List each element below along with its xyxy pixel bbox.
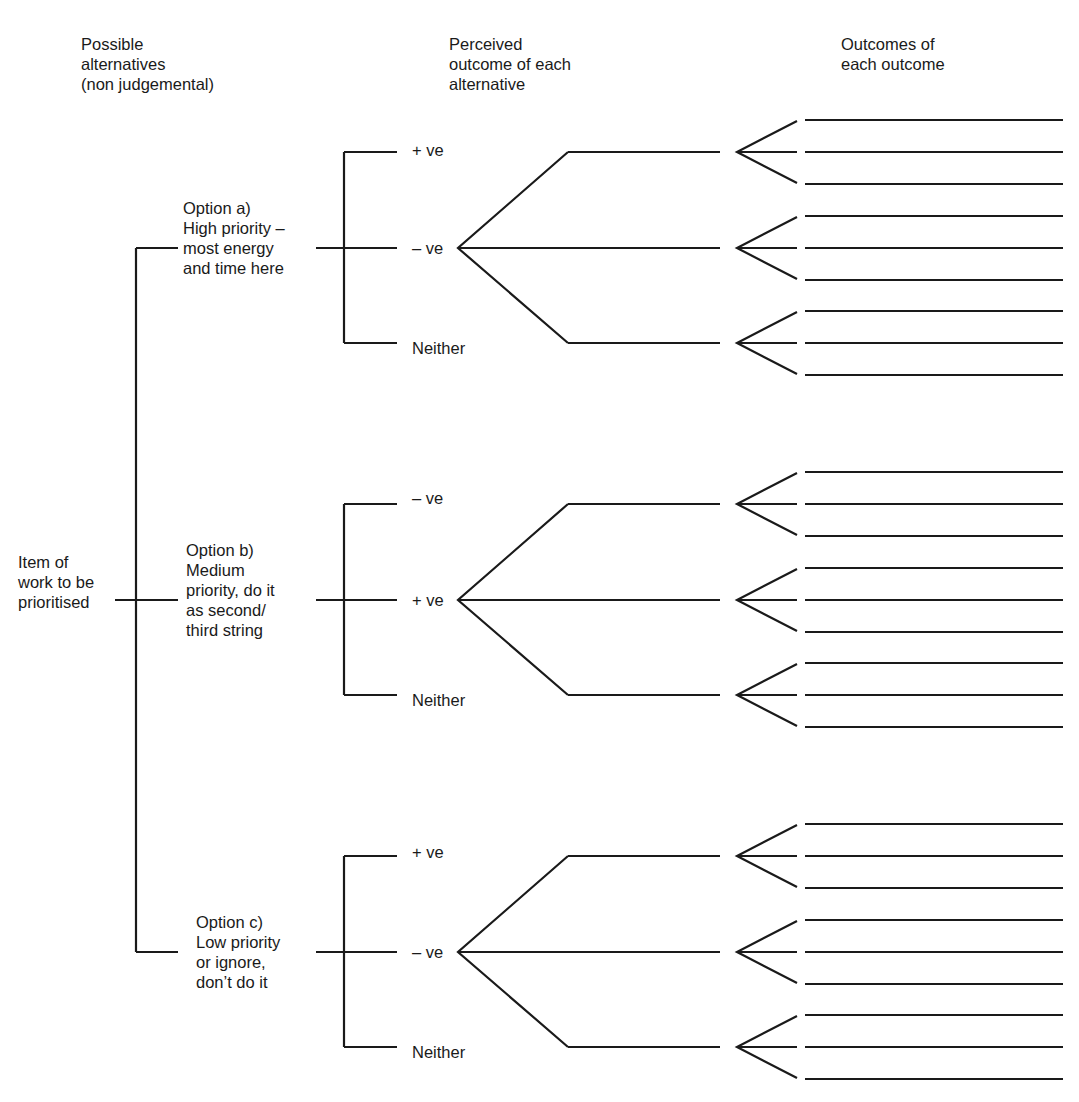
decision-tree-lines [0, 0, 1079, 1102]
